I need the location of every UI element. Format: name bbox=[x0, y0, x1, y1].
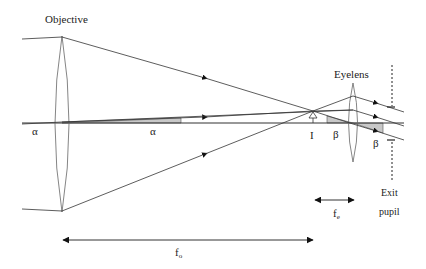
objective-lens bbox=[55, 36, 69, 212]
ray-bottom-to-image-cont bbox=[205, 111, 313, 154]
ray-bottom-to-image bbox=[62, 154, 205, 211]
telescope-diagram: Objective Eyelens α α I β β Exit pupil f… bbox=[0, 0, 426, 269]
emerging-ray-bottom-cont bbox=[376, 131, 404, 140]
ray-objective-to-eyelens bbox=[62, 110, 353, 122]
alpha-mid-label: α bbox=[150, 125, 156, 137]
emerging-ray-mid bbox=[353, 110, 376, 117]
ray-top-to-image-cont bbox=[205, 78, 313, 111]
fo-label: fo bbox=[175, 246, 183, 260]
exit-pupil-label-line2: pupil bbox=[379, 206, 400, 217]
incoming-ray-bottom bbox=[22, 209, 62, 211]
incoming-ray-top bbox=[22, 37, 62, 39]
ray-diverge-to-eyelens-top bbox=[313, 96, 353, 111]
beta-right-label: β bbox=[373, 137, 379, 149]
eyelens-label: Eyelens bbox=[334, 68, 369, 80]
objective-label: Objective bbox=[45, 13, 88, 25]
image-arrow-icon bbox=[309, 112, 317, 118]
ray-top-to-image bbox=[62, 37, 205, 78]
fe-label: fe bbox=[333, 207, 340, 221]
beta-mid-label: β bbox=[333, 128, 339, 140]
image-label: I bbox=[310, 129, 314, 141]
alpha-left-label: α bbox=[32, 125, 38, 137]
exit-pupil-label-line1: Exit bbox=[381, 187, 398, 198]
